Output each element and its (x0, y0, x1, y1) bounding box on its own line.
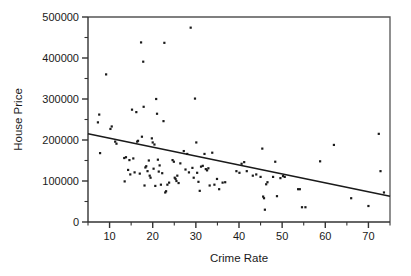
data-point (115, 143, 117, 145)
data-point (152, 141, 154, 143)
data-point (179, 162, 181, 164)
x-tick-label: 70 (362, 230, 374, 242)
data-point (166, 184, 168, 186)
y-tick-label: 500000 (42, 11, 79, 23)
data-point (183, 150, 185, 152)
data-point (178, 182, 180, 184)
data-point (264, 209, 266, 211)
chart-canvas: 0100000200000300000400000500000 10203040… (0, 0, 411, 276)
data-point (209, 184, 211, 186)
data-point (333, 144, 335, 146)
data-point (301, 206, 303, 208)
data-point (203, 153, 205, 155)
data-point (188, 171, 190, 173)
data-point (128, 159, 130, 161)
data-point (157, 159, 159, 161)
data-point (193, 177, 195, 179)
x-tick-label: 60 (319, 230, 331, 242)
data-point (252, 175, 254, 177)
data-point (129, 173, 131, 175)
data-point (176, 175, 178, 177)
data-point (197, 181, 199, 183)
frame-border (88, 17, 390, 222)
x-axis-title: Crime Rate (210, 252, 268, 264)
data-point (194, 97, 196, 99)
data-point (143, 106, 145, 108)
data-point (211, 152, 213, 154)
y-tick-label: 200000 (42, 134, 79, 146)
data-point (218, 188, 220, 190)
y-tick-label: 0 (73, 216, 79, 228)
data-point (146, 170, 148, 172)
regression-trend-line (88, 134, 390, 196)
y-tick-label: 100000 (42, 175, 79, 187)
data-point (196, 172, 198, 174)
data-point (276, 195, 278, 197)
x-tick-label: 40 (233, 230, 245, 242)
data-point (149, 175, 151, 177)
data-point (191, 167, 193, 169)
data-point (383, 191, 385, 193)
data-point (98, 113, 100, 115)
x-axis-tick-labels: 10203040506070 (103, 230, 374, 242)
data-point (195, 141, 197, 143)
data-point (304, 206, 306, 208)
data-point (379, 170, 381, 172)
data-point (162, 120, 164, 122)
data-point (109, 128, 111, 130)
data-point (161, 172, 163, 174)
data-point (367, 205, 369, 207)
data-point (142, 61, 144, 63)
data-point (156, 113, 158, 115)
data-point (222, 182, 224, 184)
y-tick-label: 300000 (42, 93, 79, 105)
data-point (114, 141, 116, 143)
scatter-points (97, 27, 385, 211)
data-point (97, 121, 99, 123)
data-point (259, 176, 261, 178)
data-point (378, 133, 380, 135)
data-point (139, 173, 141, 175)
data-point (266, 181, 268, 183)
data-point (350, 197, 352, 199)
y-tick-label: 400000 (42, 52, 79, 64)
data-point (261, 148, 263, 150)
x-tick-label: 30 (190, 230, 202, 242)
data-point (132, 157, 134, 159)
y-axis-tick-labels: 0100000200000300000400000500000 (42, 11, 79, 228)
data-point (175, 180, 177, 182)
data-point (131, 109, 133, 111)
data-point (135, 111, 137, 113)
data-point (149, 177, 151, 179)
data-point (152, 168, 154, 170)
y-axis-title: House Price (12, 88, 24, 151)
data-point (184, 168, 186, 170)
data-point (105, 73, 107, 75)
data-point (124, 180, 126, 182)
data-point (154, 185, 156, 187)
data-point (173, 161, 175, 163)
data-point (263, 197, 265, 199)
x-tick-label: 20 (147, 230, 159, 242)
data-point (240, 163, 242, 165)
data-point (246, 170, 248, 172)
data-point (153, 143, 155, 145)
data-point (213, 184, 215, 186)
scatter-plot-figure: 0100000200000300000400000500000 10203040… (0, 0, 411, 276)
data-point (127, 169, 129, 171)
data-point (265, 183, 267, 185)
data-point (160, 184, 162, 186)
data-point (224, 181, 226, 183)
data-point (207, 167, 209, 169)
data-point (272, 176, 274, 178)
data-point (125, 156, 127, 158)
data-point (274, 161, 276, 163)
plot-frame (88, 17, 390, 222)
data-point (155, 98, 157, 100)
data-point (199, 190, 201, 192)
data-point (165, 190, 167, 192)
data-point (99, 152, 101, 154)
data-point (151, 137, 153, 139)
data-point (319, 160, 321, 162)
data-point (141, 136, 143, 138)
